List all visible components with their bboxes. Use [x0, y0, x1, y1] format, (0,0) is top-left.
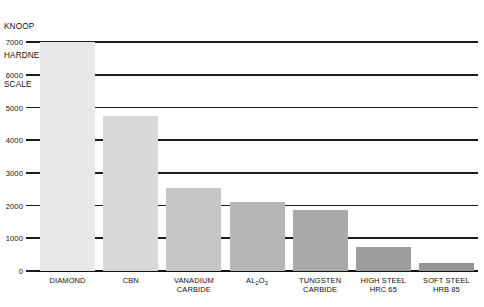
tick-stub-5000: [26, 107, 36, 109]
ytick-label-3000: 3000: [6, 169, 23, 178]
bar-high-steel-hrc-65: [356, 247, 411, 271]
bar-vanadium-carbide: [166, 188, 221, 271]
category-axis-labels: DIAMONDCBNVANADIUM CARBIDEAL2O3TUNGSTEN …: [36, 276, 478, 304]
bar-diamond: [40, 42, 95, 271]
tick-stub-1000: [26, 237, 36, 239]
plot-area: 01000200030004000500060007000: [36, 42, 478, 271]
ytick-label-6000: 6000: [6, 70, 23, 79]
ytick-label-2000: 2000: [6, 201, 23, 210]
ytick-label-7000: 7000: [6, 38, 23, 47]
gridline-6000: 6000: [36, 74, 478, 76]
ytick-label-5000: 5000: [6, 103, 23, 112]
tick-stub-6000: [26, 74, 36, 76]
ytick-label-4000: 4000: [6, 136, 23, 145]
knoop-hardness-bar-chart: KNOOP HARDNESS SCALE 0100020003000400050…: [0, 0, 484, 307]
xlabel-soft-steel-hrb-85: SOFT STEEL HRB 85: [406, 276, 484, 294]
tick-stub-4000: [26, 139, 36, 141]
bar-al2o3: [230, 202, 285, 271]
ytick-label-0: 0: [19, 267, 23, 276]
bar-tungsten-carbide: [293, 210, 348, 271]
tick-stub-3000: [26, 172, 36, 174]
tick-stub-0: [26, 270, 36, 272]
tick-stub-7000: [26, 41, 36, 43]
gridline-7000: 7000: [36, 41, 478, 43]
tick-stub-2000: [26, 205, 36, 207]
bar-cbn: [103, 116, 158, 271]
gridline-5000: 5000: [36, 107, 478, 109]
ytick-label-1000: 1000: [6, 234, 23, 243]
bar-soft-steel-hrb-85: [419, 263, 474, 271]
axis-title-line-1: KNOOP: [4, 22, 51, 32]
